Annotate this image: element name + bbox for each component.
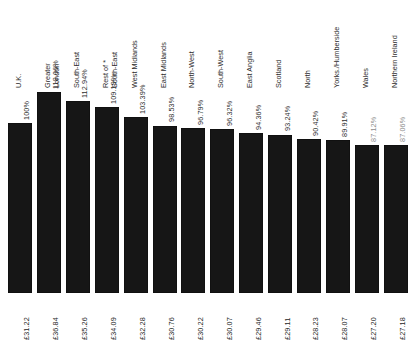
bar[interactable] <box>268 135 292 294</box>
category-label-line: West Midlands <box>131 40 140 88</box>
category-label-line: Rest of * <box>102 52 111 88</box>
category-label-line: East Anglia <box>246 51 255 88</box>
bar-value-label: £28.23 <box>312 317 320 340</box>
category-label-line: North-West <box>188 51 197 88</box>
bar-value-label: £32.28 <box>139 317 147 340</box>
category-label: East Midlands <box>160 42 169 88</box>
bar-percent-label: 103.39% <box>139 85 147 114</box>
category-label: GreaterLondon <box>44 63 61 88</box>
bar-percent-label: 90.42% <box>312 111 320 136</box>
plot-area: 100%£31.22U.K.118.06%£36.84GreaterLondon… <box>0 0 420 344</box>
category-label: Rest of *South-East <box>102 52 119 88</box>
category-label: East Anglia <box>246 51 255 88</box>
category-label: West Midlands <box>131 40 140 88</box>
bar-value-label: £27.20 <box>370 317 378 340</box>
bar[interactable] <box>384 145 408 293</box>
bar[interactable] <box>355 145 379 293</box>
category-label: South-West <box>217 50 226 88</box>
category-label: U.K. <box>15 74 24 88</box>
category-label-line: South-West <box>217 50 226 88</box>
category-label: South-East <box>73 52 82 88</box>
bar-value-label: £29.46 <box>255 317 263 340</box>
bar-value-label: £27.18 <box>399 317 407 340</box>
bar[interactable] <box>297 139 321 293</box>
bar[interactable] <box>153 126 177 294</box>
bar-percent-label: 98.53% <box>168 97 176 122</box>
category-label-line: Scotland <box>275 60 284 88</box>
bar-value-label: £30.76 <box>168 317 176 340</box>
bar[interactable] <box>210 129 234 293</box>
bar-value-label: £30.07 <box>226 317 234 340</box>
bar[interactable] <box>66 101 90 293</box>
bar[interactable] <box>239 133 263 293</box>
bar[interactable] <box>181 128 205 293</box>
bar-chart: 100%£31.22U.K.118.06%£36.84GreaterLondon… <box>0 0 420 344</box>
bar-percent-label: 96.79% <box>197 100 205 125</box>
category-label-line: Wales <box>362 68 371 88</box>
bar[interactable] <box>8 123 32 293</box>
bar[interactable] <box>124 117 148 293</box>
bar-value-label: £29.11 <box>284 318 292 340</box>
bar-value-label: £31.22 <box>23 317 31 340</box>
category-label-line: U.K. <box>15 74 24 88</box>
bar-value-label: £34.09 <box>110 317 118 340</box>
bar-percent-label: 87.12% <box>370 117 378 142</box>
bar-percent-label: 112.94% <box>81 69 89 98</box>
bar-percent-label: 94.36% <box>255 104 263 129</box>
bar-percent-label: 89.91% <box>341 112 349 137</box>
bar-percent-label: 93.24% <box>284 106 292 131</box>
bar[interactable] <box>326 140 350 293</box>
bar-value-label: £30.22 <box>197 317 205 340</box>
category-label-line: Northern Ireland <box>391 35 400 88</box>
category-label: Northern Ireland <box>391 35 400 88</box>
category-label: Scotland <box>275 60 284 88</box>
category-label-line: South-East <box>110 52 119 88</box>
category-label: North <box>304 70 313 88</box>
bar-value-label: £35.26 <box>81 317 89 340</box>
category-label-line: North <box>304 70 313 88</box>
bar[interactable] <box>95 107 119 293</box>
bar-percent-label: 96.32% <box>226 101 234 126</box>
bar-percent-label: 100% <box>23 101 31 120</box>
category-label-line: East Midlands <box>160 42 169 88</box>
category-label-line: London <box>52 63 61 88</box>
category-label: Yorks./Humberside <box>333 27 342 88</box>
bar[interactable] <box>37 92 61 293</box>
bar-value-label: £28.07 <box>341 317 349 340</box>
bar-value-label: £36.84 <box>52 317 60 340</box>
category-label-line: South-East <box>73 52 82 88</box>
category-label: Wales <box>362 68 371 88</box>
category-label-line: Yorks./Humberside <box>333 27 342 88</box>
bar-percent-label: 87.06% <box>399 117 407 142</box>
category-label: North-West <box>188 51 197 88</box>
